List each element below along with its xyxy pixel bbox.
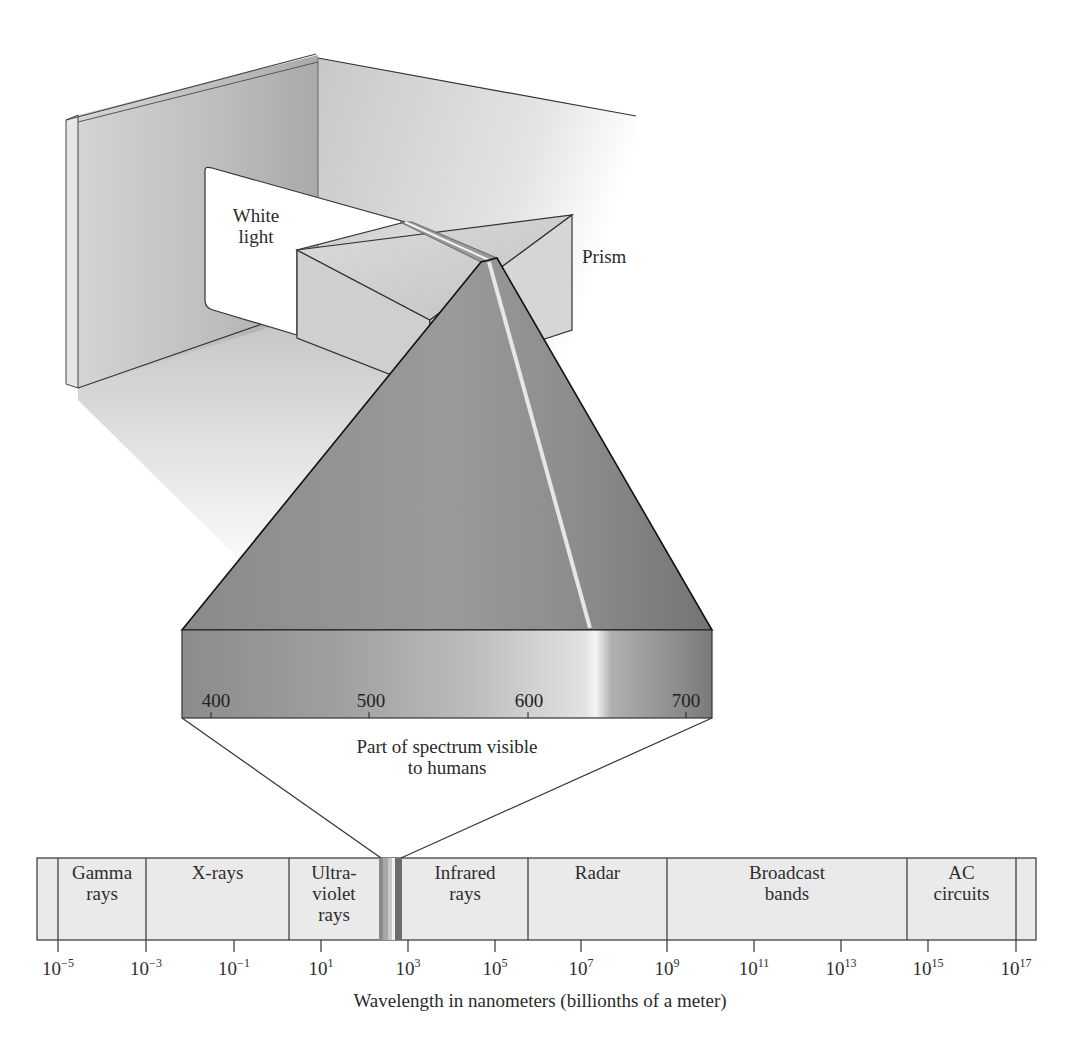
- visible-tick-400: 400: [202, 690, 231, 712]
- visible-tick-600: 600: [515, 690, 544, 712]
- band-text: violet: [289, 883, 379, 904]
- tick-label: 1013: [826, 956, 857, 980]
- tick-label: 105: [483, 956, 508, 980]
- caption-line-2: to humans: [300, 757, 594, 778]
- tick-label: 103: [396, 956, 421, 980]
- tick-label: 107: [569, 956, 594, 980]
- band-radar: Radar: [528, 862, 667, 883]
- tick-label: 101: [309, 956, 334, 980]
- prism-label: Prism: [582, 246, 626, 267]
- band-gamma-rays: Gamma rays: [58, 862, 146, 904]
- band-broadcast: Broadcast bands: [667, 862, 907, 904]
- band-text: rays: [289, 904, 379, 925]
- band-text: Gamma: [58, 862, 146, 883]
- band-ac-circuits: AC circuits: [907, 862, 1016, 904]
- band-text: AC: [907, 862, 1016, 883]
- band-text: rays: [402, 883, 528, 904]
- white-light-line-1: White: [220, 205, 292, 226]
- band-text: Radar: [528, 862, 667, 883]
- tick-label: 1015: [913, 956, 944, 980]
- caption-line-1: Part of spectrum visible: [300, 736, 594, 757]
- tick-label: 109: [655, 956, 680, 980]
- tick-label: 10−5: [42, 956, 74, 980]
- white-light-label: White light: [220, 205, 292, 247]
- axis-title: Wavelength in nanometers (billionths of …: [200, 990, 880, 1011]
- band-ultraviolet: Ultra- violet rays: [289, 862, 379, 925]
- band-text: X-rays: [146, 862, 289, 883]
- visible-tick-700: 700: [672, 690, 701, 712]
- band-infrared: Infrared rays: [402, 862, 528, 904]
- band-text: Infrared: [402, 862, 528, 883]
- band-text: Broadcast: [667, 862, 907, 883]
- band-x-rays: X-rays: [146, 862, 289, 883]
- visible-spectrum-caption: Part of spectrum visible to humans: [300, 736, 594, 778]
- visible-spectrum-band: [182, 630, 712, 718]
- white-light-line-2: light: [220, 226, 292, 247]
- tick-label: 1017: [1001, 956, 1032, 980]
- tick-label: 10−3: [130, 956, 162, 980]
- band-text: circuits: [907, 883, 1016, 904]
- band-text: bands: [667, 883, 907, 904]
- band-text: Ultra-: [289, 862, 379, 883]
- band-text: rays: [58, 883, 146, 904]
- tick-label: 1011: [739, 956, 770, 980]
- tick-label: 10−1: [218, 956, 250, 980]
- visible-tick-500: 500: [357, 690, 386, 712]
